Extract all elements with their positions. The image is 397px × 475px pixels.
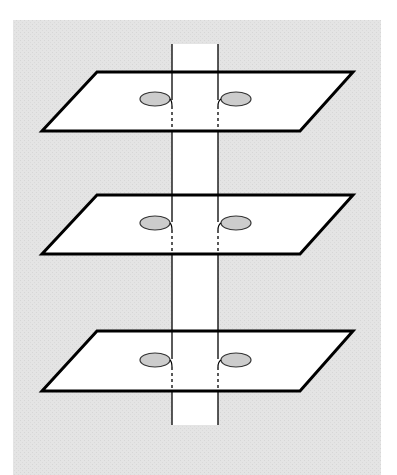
right-disk bbox=[221, 92, 251, 106]
left-disk bbox=[140, 353, 170, 367]
left-disk bbox=[140, 216, 170, 230]
right-disk bbox=[221, 216, 251, 230]
top-plane bbox=[42, 72, 353, 131]
right-disk bbox=[221, 353, 251, 367]
bottom-plane bbox=[42, 331, 353, 391]
middle-plane bbox=[42, 195, 353, 254]
three-planes-strip-diagram bbox=[0, 0, 397, 475]
left-disk bbox=[140, 92, 170, 106]
